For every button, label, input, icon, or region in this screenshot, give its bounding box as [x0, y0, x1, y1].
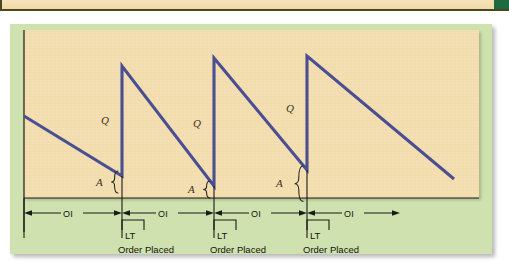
leadtime-bracket-3 [307, 220, 329, 230]
interval-label-2: OI [158, 209, 168, 219]
inventory-sawtooth-line [24, 56, 454, 186]
banner-left-edge [0, 0, 2, 11]
leadtime-label-3: LT [310, 230, 321, 241]
leadtime-bracket-2 [214, 220, 236, 230]
quantity-label-3: Q [286, 102, 294, 114]
banner-tan-band [0, 0, 492, 9]
interval-label-4: OI [344, 209, 354, 219]
leadtime-bracket-1 [122, 220, 144, 230]
receipt-brace-3 [295, 166, 303, 201]
receipt-brace-2 [203, 181, 210, 198]
order-placed-label-3: Order Placed [303, 244, 359, 255]
quantity-label-1: Q [101, 114, 109, 126]
page-banner-strip [0, 0, 509, 11]
quantity-label-2: Q [193, 117, 201, 129]
order-placed-label-1: Order Placed [118, 244, 174, 255]
interval-label-3: OI [251, 209, 261, 219]
interval-arrow-left-4 [307, 210, 315, 216]
interval-label-1: OI [63, 209, 73, 219]
receipt-label-2: A [187, 183, 195, 195]
figure-root: Q Q Q A A A OI OI [0, 0, 509, 278]
figure-card: Q Q Q A A A OI OI [10, 24, 492, 254]
interval-arrow-right-2 [206, 210, 214, 216]
leadtime-label-1: LT [125, 230, 136, 241]
interval-arrow-left-3 [214, 210, 222, 216]
diagram-layer: Q Q Q A A A OI OI [10, 24, 492, 254]
order-placed-label-2: Order Placed [210, 244, 266, 255]
interval-arrow-right-3 [299, 210, 307, 216]
leadtime-label-2: LT [217, 230, 228, 241]
interval-arrow-left-1 [24, 210, 32, 216]
interval-arrow-right-1 [114, 210, 122, 216]
banner-green-tab [494, 0, 509, 9]
interval-arrow-right-4 [392, 210, 400, 216]
receipt-label-1: A [95, 176, 103, 188]
interval-arrow-left-2 [122, 210, 130, 216]
receipt-label-3: A [275, 177, 283, 189]
